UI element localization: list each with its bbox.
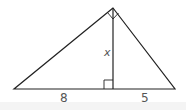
altitude-label: x bbox=[103, 46, 111, 59]
right-angle-mark-foot bbox=[104, 80, 113, 89]
triangle-diagram: x 8 5 bbox=[0, 0, 186, 102]
left-segment-label: 8 bbox=[60, 91, 68, 102]
triangle bbox=[14, 8, 175, 89]
right-segment-label: 5 bbox=[141, 91, 149, 102]
bottom-band bbox=[0, 102, 186, 110]
